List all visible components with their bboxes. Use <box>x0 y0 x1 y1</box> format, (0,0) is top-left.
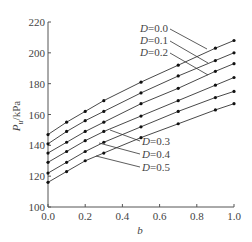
x-tick-label: 0.8 <box>190 210 204 222</box>
x-axis-label: b <box>137 224 143 236</box>
data-point <box>232 39 235 42</box>
series-lines <box>46 39 235 184</box>
data-point <box>177 64 180 67</box>
data-point <box>102 121 105 124</box>
data-point <box>102 99 105 102</box>
data-point <box>46 161 49 164</box>
y-axis-label: Pu/kPa <box>10 101 25 132</box>
annotation-label: D=0.0 <box>139 22 168 34</box>
data-point <box>139 81 142 84</box>
data-point <box>65 141 68 144</box>
series-d-0-1 <box>46 51 235 145</box>
data-point <box>177 99 180 102</box>
data-point <box>65 161 68 164</box>
line-chart: 100120140160180200220 0.00.20.40.60.81.0… <box>0 0 252 242</box>
data-point <box>84 139 87 142</box>
data-point <box>84 150 87 153</box>
data-point <box>102 130 105 133</box>
x-tick-label: 0.6 <box>153 210 167 222</box>
data-point <box>232 76 235 79</box>
data-point <box>102 141 105 144</box>
series-d-0-2 <box>46 62 235 155</box>
data-point <box>46 171 49 174</box>
data-point <box>232 51 235 54</box>
data-point <box>65 150 68 153</box>
data-point <box>102 151 105 154</box>
y-tick-label: 160 <box>29 109 46 121</box>
data-point <box>46 133 49 136</box>
data-point <box>84 110 87 113</box>
data-point <box>214 70 217 73</box>
data-point <box>84 119 87 122</box>
data-point <box>232 102 235 105</box>
data-point <box>102 110 105 113</box>
data-point <box>232 62 235 65</box>
data-point <box>177 110 180 113</box>
y-tick-label: 180 <box>29 78 46 90</box>
data-point <box>139 125 142 128</box>
x-tick-label: 0.0 <box>41 210 55 222</box>
svg-text:Pu/kPa: Pu/kPa <box>10 101 25 132</box>
data-point <box>177 122 180 125</box>
annotation-label: D=0.1 <box>139 34 168 46</box>
x-tick-label: 0.2 <box>78 210 92 222</box>
data-point <box>139 91 142 94</box>
data-point <box>84 130 87 133</box>
annotation-label: D=0.3 <box>141 135 170 147</box>
y-tick-label: 120 <box>29 170 46 182</box>
legend-annotations: D=0.0D=0.1D=0.2D=0.3D=0.4D=0.5 <box>96 22 208 173</box>
annotation-label: D=0.2 <box>139 46 168 58</box>
data-point <box>46 151 49 154</box>
data-point <box>139 102 142 105</box>
y-tick-label: 140 <box>29 139 46 151</box>
x-tick-label: 0.4 <box>116 210 130 222</box>
data-point <box>84 159 87 162</box>
data-point <box>214 96 217 99</box>
series-d-0-3 <box>46 76 235 164</box>
data-point <box>232 90 235 93</box>
annotation-label: D=0.4 <box>141 148 170 160</box>
data-point <box>177 87 180 90</box>
data-point <box>177 74 180 77</box>
data-point <box>65 170 68 173</box>
series-d-0-5 <box>46 102 235 184</box>
data-point <box>65 130 68 133</box>
data-point <box>214 59 217 62</box>
data-point <box>46 181 49 184</box>
data-point <box>65 121 68 124</box>
data-point <box>214 84 217 87</box>
data-point <box>46 142 49 145</box>
y-tick-label: 220 <box>29 16 46 28</box>
y-tick-label: 200 <box>29 47 46 59</box>
x-tick-label: 1.0 <box>227 210 241 222</box>
annotation-label: D=0.5 <box>141 161 170 173</box>
data-point <box>139 114 142 117</box>
data-point <box>214 108 217 111</box>
data-point <box>214 47 217 50</box>
